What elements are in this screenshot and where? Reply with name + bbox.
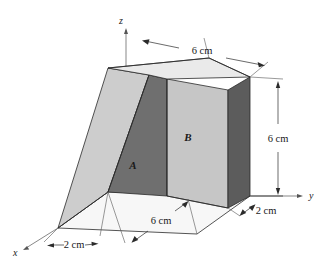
- dimension-right-arrow-top: [276, 81, 280, 88]
- dimension-slabthk-ext-left: [228, 208, 240, 216]
- figure-container: z y x: [0, 0, 327, 280]
- x-axis-label: x: [12, 247, 18, 258]
- dimension-right-height-group: 6 cm: [250, 77, 288, 196]
- slab-right-side-face: [228, 77, 250, 208]
- dimension-top-arrow-left: [142, 39, 150, 44]
- y-axis-label: y: [308, 190, 314, 201]
- y-axis-arrowhead: [297, 194, 303, 198]
- dimension-right-arrow-bottom: [276, 188, 280, 195]
- dimension-left-arrow-outer: [47, 243, 54, 247]
- z-axis-arrowhead: [124, 28, 128, 34]
- dimension-slabthk-arrow-right: [249, 204, 256, 211]
- dimension-top-line-left: [145, 41, 179, 48]
- dimension-top-label: 6 cm: [192, 45, 213, 56]
- face-label-a: A: [128, 159, 136, 171]
- dimension-top-arrow-right: [258, 62, 265, 67]
- dimension-base-arrow-lower: [132, 236, 139, 243]
- face-b-front: [167, 79, 228, 208]
- z-axis-label: z: [118, 15, 123, 26]
- dimension-left-arrow-inner: [92, 242, 99, 246]
- dimension-base-label: 6 cm: [151, 215, 172, 226]
- isometric-solid-figure: z y x: [0, 0, 327, 280]
- dimension-right-ext-top: [250, 77, 283, 79]
- dimension-slabthk-label: 2 cm: [256, 205, 277, 216]
- face-label-b: B: [183, 131, 191, 143]
- solid-body: [58, 58, 250, 234]
- dimension-left-label: 2 cm: [64, 239, 85, 250]
- dimension-slabthk-arrow-left: [240, 209, 247, 216]
- dimension-top-line-right: [226, 58, 262, 65]
- dimension-right-label: 6 cm: [268, 133, 289, 144]
- dimension-left-ext-outer: [44, 228, 58, 242]
